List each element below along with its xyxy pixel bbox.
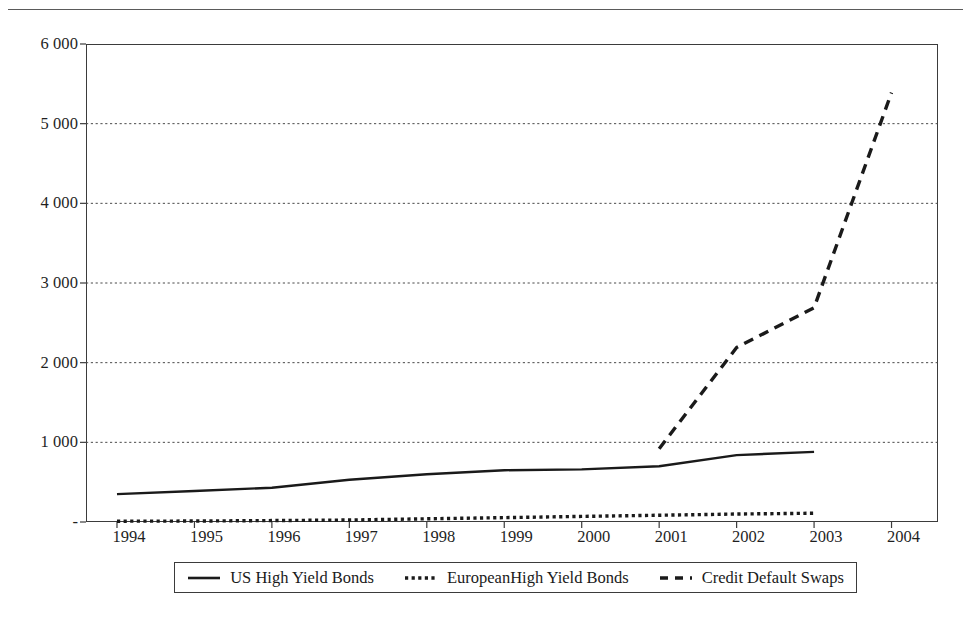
x-axis-tick-label: 2004 [869,527,939,547]
page-top-rule [8,9,963,10]
y-axis-tick-label: 5 000 [4,116,78,133]
x-axis-labels: 1994199519961997199819992000200120022003… [0,527,971,553]
dotted-line-swatch [404,572,438,584]
x-axis-tick-label: 1998 [404,527,474,547]
legend-label: US High Yield Bonds [230,569,374,586]
y-axis-labels: 6 0005 0004 0003 0002 0001 000- [0,0,78,560]
x-axis-tick-label: 2000 [559,527,629,547]
plot-area-frame [86,44,938,522]
y-axis-tick-label: 1 000 [4,434,78,451]
solid-line-swatch [187,572,221,584]
x-axis-tick-label: 1997 [326,527,396,547]
legend-entry[interactable]: EuropeanHigh Yield Bonds [404,569,629,586]
x-axis-tick-label: 1999 [481,527,551,547]
x-axis-tick-label: 2001 [636,527,706,547]
chart-figure: 6 0005 0004 0003 0002 0001 000- 19941995… [0,0,971,621]
legend-label: EuropeanHigh Yield Bonds [447,569,629,586]
x-axis-tick-label: 1995 [171,527,241,547]
x-axis-tick-label: 2002 [714,527,784,547]
y-axis-tick-label: 4 000 [4,195,78,212]
legend-entry[interactable]: Credit Default Swaps [659,569,844,586]
y-axis-tick-label: 6 000 [4,36,78,53]
legend-entry[interactable]: US High Yield Bonds [187,569,374,586]
y-axis-tick-label: 3 000 [4,275,78,292]
dashed-line-swatch [659,572,693,584]
x-axis-tick-label: 2003 [791,527,861,547]
legend-label: Credit Default Swaps [702,569,844,586]
chart-legend: US High Yield BondsEuropeanHigh Yield Bo… [174,562,857,593]
x-axis-tick-label: 1994 [94,527,164,547]
y-axis-tick-label: 2 000 [4,355,78,372]
x-axis-tick-label: 1996 [249,527,319,547]
